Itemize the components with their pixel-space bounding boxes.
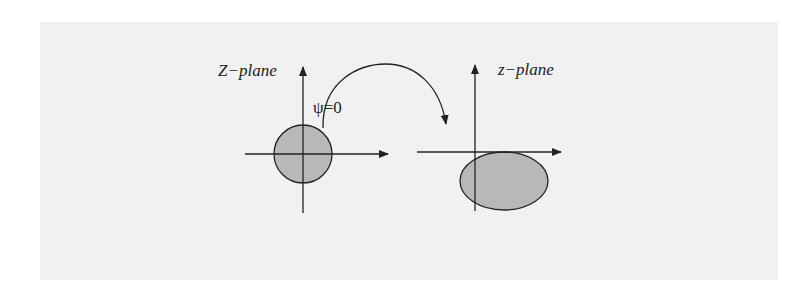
z-plane-upper-panel: Z−plane ψ=0 (218, 61, 388, 213)
z-plane-lower-label: z−plane (497, 60, 554, 79)
z-plane-upper-label: Z−plane (218, 61, 277, 80)
mapped-ellipse-region (460, 152, 548, 210)
z-plane-lower-panel: z−plane (417, 60, 561, 211)
conformal-mapping-diagram: Z−plane ψ=0 z−plane (0, 0, 811, 292)
mapping-arrow-icon (323, 64, 446, 128)
